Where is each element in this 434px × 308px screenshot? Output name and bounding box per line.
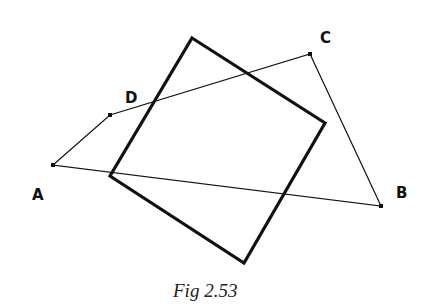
- label-a: A: [32, 186, 44, 204]
- square: [110, 38, 325, 263]
- quadrilateral-adcb: [53, 54, 381, 206]
- point-c: [308, 52, 312, 56]
- label-c: C: [320, 29, 331, 47]
- label-b: B: [396, 184, 407, 202]
- figure-caption: Fig 2.53: [172, 280, 237, 301]
- label-d: D: [125, 89, 137, 107]
- geometry-figure: A B C D Fig 2.53: [0, 0, 434, 308]
- point-a: [51, 163, 55, 167]
- point-b: [379, 204, 383, 208]
- point-d: [108, 113, 112, 117]
